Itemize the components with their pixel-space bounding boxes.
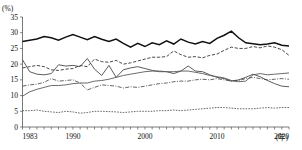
series-6-dotted-lowest bbox=[23, 108, 290, 114]
x-axis-tick-labels: 19831990200020102020 bbox=[23, 132, 290, 141]
series-4-solid-rising bbox=[23, 71, 290, 96]
y-tick-label: 15 bbox=[11, 75, 19, 84]
y-tick-label: 0 bbox=[14, 123, 18, 132]
line-chart: 05101520253035 19831990200020102020 (%) … bbox=[0, 0, 302, 150]
y-tick-label: 5 bbox=[14, 107, 18, 116]
x-tick-label: 1990 bbox=[65, 132, 80, 141]
y-tick-label: 30 bbox=[11, 28, 19, 37]
series-3-solid-declining bbox=[23, 58, 290, 86]
chart-series-group bbox=[23, 31, 290, 113]
y-axis-unit-label: (%) bbox=[2, 4, 14, 13]
y-tick-label: 25 bbox=[11, 44, 19, 53]
series-5-dash-dot bbox=[23, 77, 290, 90]
y-tick-label: 20 bbox=[11, 60, 19, 69]
x-tick-label: 1983 bbox=[23, 132, 38, 141]
x-axis-unit-label: (年) bbox=[276, 132, 288, 142]
y-tick-label: 10 bbox=[11, 91, 19, 100]
series-1-thick-solid bbox=[23, 31, 290, 47]
series-2-dashed bbox=[23, 46, 290, 71]
y-axis-tick-labels: 05101520253035 bbox=[11, 13, 19, 132]
x-tick-label: 2010 bbox=[209, 132, 224, 141]
y-tick-label: 35 bbox=[11, 13, 19, 22]
x-tick-label: 2000 bbox=[137, 132, 152, 141]
chart-svg: 05101520253035 19831990200020102020 (%) … bbox=[0, 0, 302, 150]
